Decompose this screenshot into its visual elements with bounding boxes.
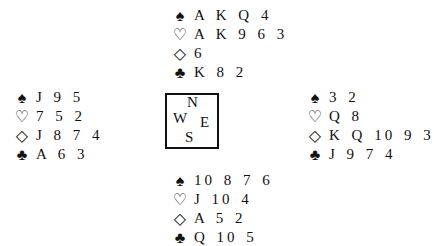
cards: 6 bbox=[194, 44, 205, 63]
club-icon: ♣ bbox=[13, 145, 31, 164]
cards: Q 8 bbox=[329, 107, 362, 126]
cards: K 8 2 bbox=[194, 63, 246, 82]
compass-east-label: E bbox=[200, 114, 209, 131]
cards: J 9 7 4 bbox=[329, 145, 396, 164]
compass-south-label: S bbox=[185, 129, 193, 146]
cards: A 6 3 bbox=[36, 145, 88, 164]
spades-row: ♠10 8 7 6 bbox=[171, 171, 273, 190]
clubs-row: ♣J 9 7 4 bbox=[306, 145, 434, 164]
spades-row: ♠A K Q 4 bbox=[171, 6, 287, 25]
heart-icon: ♡ bbox=[171, 190, 189, 209]
compass-north-label: N bbox=[187, 94, 198, 111]
diamond-icon: ◇ bbox=[171, 209, 189, 228]
west-hand: ♠J 9 5 ♡7 5 2 ◇J 8 7 4 ♣A 6 3 bbox=[13, 88, 103, 164]
diamonds-row: ◇6 bbox=[171, 44, 287, 63]
south-hand: ♠10 8 7 6 ♡J 10 4 ◇A 5 2 ♣Q 10 5 bbox=[171, 171, 273, 246]
diamond-icon: ◇ bbox=[171, 44, 189, 63]
cards: K Q 10 9 3 bbox=[329, 126, 434, 145]
cards: J 8 7 4 bbox=[36, 126, 103, 145]
diamonds-row: ◇J 8 7 4 bbox=[13, 126, 103, 145]
clubs-row: ♣K 8 2 bbox=[171, 63, 287, 82]
cards: A K Q 4 bbox=[194, 6, 271, 25]
cards: 10 8 7 6 bbox=[194, 171, 273, 190]
club-icon: ♣ bbox=[306, 145, 324, 164]
spades-row: ♠J 9 5 bbox=[13, 88, 103, 107]
hearts-row: ♡Q 8 bbox=[306, 107, 434, 126]
heart-icon: ♡ bbox=[306, 107, 324, 126]
compass-box: N W E S bbox=[165, 93, 219, 149]
clubs-row: ♣Q 10 5 bbox=[171, 228, 273, 246]
heart-icon: ♡ bbox=[171, 25, 189, 44]
spade-icon: ♠ bbox=[306, 88, 324, 107]
club-icon: ♣ bbox=[171, 228, 189, 246]
cards: J 10 4 bbox=[194, 190, 252, 209]
spade-icon: ♠ bbox=[171, 6, 189, 25]
spade-icon: ♠ bbox=[13, 88, 31, 107]
hearts-row: ♡J 10 4 bbox=[171, 190, 273, 209]
spades-row: ♠3 2 bbox=[306, 88, 434, 107]
compass-west-label: W bbox=[173, 110, 187, 127]
diamonds-row: ◇A 5 2 bbox=[171, 209, 273, 228]
cards: A K 9 6 3 bbox=[194, 25, 287, 44]
north-hand: ♠A K Q 4 ♡A K 9 6 3 ◇6 ♣K 8 2 bbox=[171, 6, 287, 82]
cards: Q 10 5 bbox=[194, 228, 257, 246]
hearts-row: ♡7 5 2 bbox=[13, 107, 103, 126]
spade-icon: ♠ bbox=[171, 171, 189, 190]
east-hand: ♠3 2 ♡Q 8 ◇K Q 10 9 3 ♣J 9 7 4 bbox=[306, 88, 434, 164]
cards: A 5 2 bbox=[194, 209, 246, 228]
diamond-icon: ◇ bbox=[13, 126, 31, 145]
cards: 7 5 2 bbox=[36, 107, 85, 126]
diamond-icon: ◇ bbox=[306, 126, 324, 145]
clubs-row: ♣A 6 3 bbox=[13, 145, 103, 164]
club-icon: ♣ bbox=[171, 63, 189, 82]
heart-icon: ♡ bbox=[13, 107, 31, 126]
diamonds-row: ◇K Q 10 9 3 bbox=[306, 126, 434, 145]
cards: J 9 5 bbox=[36, 88, 83, 107]
hearts-row: ♡A K 9 6 3 bbox=[171, 25, 287, 44]
cards: 3 2 bbox=[329, 88, 359, 107]
